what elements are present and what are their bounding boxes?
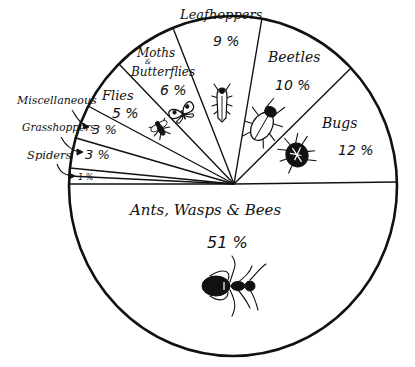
slice-beetles: Beetles 10 % bbox=[237, 49, 320, 151]
slice-label-flies: Flies bbox=[101, 88, 134, 103]
slice-value-tiny: 1 % bbox=[78, 173, 93, 182]
slice-ants-wasps-bees: Ants, Wasps & Bees 51 % bbox=[128, 201, 281, 316]
slice-value-moths: 6 % bbox=[160, 82, 187, 98]
slice-label-spiders: Spiders bbox=[27, 148, 72, 162]
slice-value-flies: 5 % bbox=[112, 105, 139, 121]
slice-label-misc: Miscellaneous bbox=[16, 94, 97, 107]
fly-icon bbox=[149, 117, 173, 141]
slice-label-moths: Moths bbox=[136, 46, 175, 60]
slice-value-bugs: 12 % bbox=[338, 142, 374, 158]
outside-labels: Miscellaneous 3 % Grasshoppers 3 % Spide… bbox=[16, 94, 117, 182]
ant-icon bbox=[202, 256, 266, 316]
bug-icon bbox=[273, 130, 318, 174]
slice-value-leafhoppers: 9 % bbox=[213, 33, 240, 49]
slice-value-misc: 3 % bbox=[92, 122, 117, 137]
slice-label-butterflies: Butterflies bbox=[130, 65, 195, 79]
insect-pie-chart: Leafhoppers 9 % Beetles 10 % Bugs 12 % bbox=[0, 0, 415, 367]
beetle-icon bbox=[237, 91, 292, 151]
leafhopper-icon bbox=[212, 84, 232, 122]
slice-value-ants: 51 % bbox=[207, 233, 248, 252]
slice-label-ants: Ants, Wasps & Bees bbox=[128, 201, 281, 219]
pie-outline bbox=[69, 16, 397, 356]
slice-label-grasshoppers: Grasshoppers bbox=[22, 121, 96, 133]
slice-label-leafhoppers: Leafhoppers bbox=[179, 7, 263, 22]
slice-label-bugs: Bugs bbox=[321, 115, 357, 131]
slice-label-beetles: Beetles bbox=[267, 49, 320, 65]
slice-value-grasshoppers: 3 % bbox=[85, 147, 110, 162]
slice-value-beetles: 10 % bbox=[275, 77, 311, 93]
slice-bugs: Bugs 12 % bbox=[273, 115, 373, 174]
butterfly-icon bbox=[167, 101, 197, 126]
